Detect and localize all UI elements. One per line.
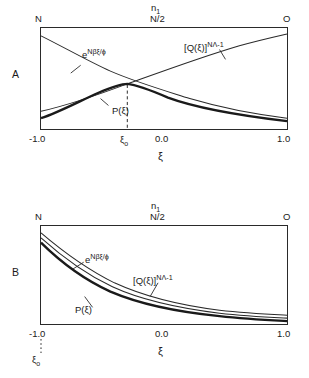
- panel-a-xtick-mid: 0.0: [155, 134, 168, 144]
- panel-b-top-tick-mid: N/2: [150, 212, 165, 222]
- panel-a: A n1 N N/2 O: [0, 0, 309, 190]
- panel-b-label-probability: P(ξ): [75, 305, 92, 315]
- leader-exponential-a: [71, 65, 81, 73]
- label-exponential-exponent: Nβξ/ϕ: [87, 47, 106, 56]
- xi0-subscript: o: [124, 140, 128, 147]
- label-q-function-base: [Q(ξ)]: [184, 42, 207, 53]
- panel-b-letter: B: [12, 266, 20, 278]
- leader-exponential-b: [73, 262, 84, 269]
- panel-b: B n1 N N/2 O eNβξ: [0, 188, 309, 378]
- xi0-subscript: o: [36, 360, 40, 367]
- label-probability-base: P(ξ): [75, 304, 92, 315]
- panel-b-top-tick-right: O: [283, 212, 290, 222]
- leader-probability-a: [101, 99, 109, 106]
- label-probability-base: P(ξ): [112, 105, 129, 116]
- panel-a-top-tick-right: O: [283, 14, 290, 24]
- panel-b-xi0-dotted-line: [36, 339, 48, 355]
- panel-b-label-q-function: [Q(ξ)]NΛ-1: [133, 276, 173, 286]
- panel-a-xaxis-title: ξ: [158, 150, 163, 162]
- label-q-function-exponent: NΛ-1: [156, 273, 172, 282]
- panel-b-xi0-label: ξo: [32, 354, 40, 367]
- label-q-function-exponent: NΛ-1: [207, 40, 223, 49]
- panel-a-top-tick-left: N: [35, 14, 42, 24]
- panel-a-letter: A: [12, 68, 20, 80]
- curve-exponential-a: [41, 36, 287, 118]
- panel-a-label-q-function: [Q(ξ)]NΛ-1: [184, 43, 224, 53]
- curve-q-function-a: [41, 34, 287, 111]
- figure-root: A n1 N N/2 O: [0, 0, 309, 378]
- panel-a-label-exponential: eNβξ/ϕ: [82, 50, 106, 60]
- curve-probability-a: [41, 84, 287, 121]
- panel-b-xtick-right: 1.0: [277, 329, 290, 339]
- panel-a-plot-frame: [40, 27, 288, 130]
- panel-b-xaxis-title: ξ: [158, 345, 163, 357]
- panel-a-top-tick-mid: N/2: [150, 14, 165, 24]
- panel-a-curves: [41, 28, 287, 129]
- label-exponential-exponent: Nβξ/ϕ: [90, 252, 109, 261]
- panel-b-xtick-left: -1.0: [29, 329, 45, 339]
- label-q-function-base: [Q(ξ)]: [133, 275, 156, 286]
- panel-a-xi0-label: ξo: [120, 134, 128, 147]
- panel-a-xtick-left: -1.0: [29, 134, 45, 144]
- panel-a-label-probability: P(ξ): [112, 106, 129, 116]
- panel-b-top-tick-left: N: [35, 212, 42, 222]
- panel-a-xtick-right: 1.0: [277, 134, 290, 144]
- panel-b-xtick-mid: 0.0: [155, 329, 168, 339]
- panel-b-label-exponential: eNβξ/ϕ: [85, 255, 109, 265]
